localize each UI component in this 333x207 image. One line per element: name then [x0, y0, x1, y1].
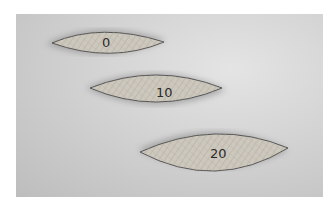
biscuit-label-10: 10: [156, 85, 173, 100]
biscuit-label-20: 20: [210, 146, 227, 161]
biscuits-illustration: [16, 14, 323, 197]
photo: 0 10 20: [16, 14, 323, 197]
biscuit-label-0: 0: [102, 35, 110, 50]
